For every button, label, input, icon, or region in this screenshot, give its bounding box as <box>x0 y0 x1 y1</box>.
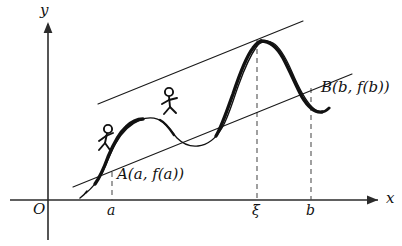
tangent-line-at-xi <box>98 21 303 104</box>
figure-canvas <box>0 0 402 246</box>
tick-label-b: b <box>306 203 315 217</box>
mean-value-theorem-figure: O x y a ξ b A(a, f(a)) B(b, f(b)) <box>0 0 402 246</box>
secant-line-AB <box>73 74 352 187</box>
tick-label-a: a <box>107 203 115 217</box>
climber-lower-head <box>104 125 112 133</box>
point-label-A: A(a, f(a)) <box>117 167 184 182</box>
climber-upper-leg-left <box>164 107 170 114</box>
tick-label-xi: ξ <box>252 203 260 217</box>
function-curve-thick-2 <box>160 120 174 135</box>
y-axis-label: y <box>40 3 48 18</box>
function-curve-thick-4 <box>261 41 322 112</box>
climber-upper-torso <box>169 97 170 108</box>
y-axis-arrowhead <box>44 22 53 33</box>
climber-lower <box>99 125 113 150</box>
origin-label: O <box>33 202 45 217</box>
axes-group <box>10 22 378 240</box>
climber-lower-leg-left <box>99 143 105 150</box>
point-label-B: B(b, f(b)) <box>321 80 390 95</box>
x-axis-label: x <box>386 191 394 206</box>
climber-upper-head <box>165 88 173 96</box>
function-curve-tail-left <box>80 191 87 198</box>
function-curve-thick-5 <box>322 108 329 112</box>
climber-upper-arm-right <box>169 98 177 100</box>
x-axis-arrowhead <box>367 196 378 205</box>
climber-upper-leg-right <box>170 107 176 113</box>
climber-upper <box>162 88 177 114</box>
climber-lower-leg-right <box>105 143 110 150</box>
climber-upper-arm-left <box>162 100 169 104</box>
function-curve-thick-3 <box>216 41 261 136</box>
